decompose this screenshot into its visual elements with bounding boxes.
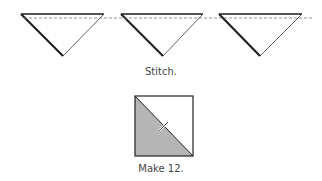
caption-make: Make 12. [0,163,322,174]
triangle-2 [121,14,203,56]
caption-stitch: Stitch. [0,66,322,77]
triangle-3 [219,14,302,56]
triangle-1 [21,14,104,56]
diagram [0,0,322,181]
half-square-triangle-unit [135,96,193,156]
